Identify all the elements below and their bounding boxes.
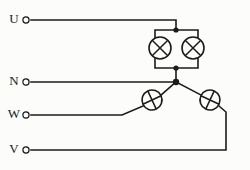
lamp-upper-right <box>182 37 204 59</box>
terminal-n[interactable]: N <box>9 73 29 88</box>
wire-lower-left-lamp-to-w <box>31 106 143 115</box>
wire-u-to-upper-branch <box>31 20 176 30</box>
terminal-u-label: U <box>9 11 19 26</box>
lamp-layer <box>139 37 223 113</box>
terminal-w-ring[interactable] <box>23 112 29 118</box>
circuit-diagram-canvas: U N W V <box>0 0 250 170</box>
junction-mid <box>173 65 178 70</box>
terminal-u[interactable]: U <box>9 11 29 26</box>
lamp-lower-left <box>139 87 165 113</box>
terminal-v[interactable]: V <box>9 141 29 156</box>
lamp-upper-left <box>149 37 171 59</box>
circuit-diagram: U N W V <box>0 0 250 170</box>
wire-neutral-to-lower-right-lamp <box>176 82 201 95</box>
terminal-v-label: V <box>9 141 19 156</box>
terminal-v-ring[interactable] <box>23 147 29 153</box>
terminal-layer: U N W V <box>8 11 29 156</box>
junction-neutral <box>173 79 179 85</box>
terminal-u-ring[interactable] <box>23 17 29 23</box>
junction-top <box>173 27 178 32</box>
terminal-n-label: N <box>9 73 19 88</box>
lamp-lower-right <box>197 87 223 113</box>
terminal-w-label: W <box>8 106 21 121</box>
terminal-w[interactable]: W <box>8 106 29 121</box>
terminal-n-ring[interactable] <box>23 79 29 85</box>
